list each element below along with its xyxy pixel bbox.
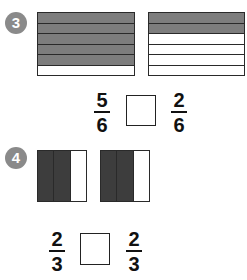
comparison-answer-box[interactable]	[126, 95, 156, 126]
shaded-part	[101, 151, 117, 201]
problem-number-badge: 4	[5, 147, 27, 169]
shaded-part	[149, 24, 244, 35]
unshaded-part	[149, 66, 244, 76]
shaded-part	[38, 24, 134, 35]
unshaded-part	[38, 66, 134, 76]
comparison-answer-box[interactable]	[80, 233, 110, 265]
shaded-part	[38, 45, 134, 56]
denominator: 6	[171, 115, 187, 135]
numerator: 5	[94, 90, 110, 110]
denominator: 3	[49, 254, 65, 274]
fraction-bar	[126, 250, 142, 252]
shaded-part	[38, 55, 134, 66]
unshaded-part	[149, 45, 244, 56]
fraction-bar	[171, 111, 187, 113]
problem-number-badge: 3	[5, 12, 27, 34]
shaded-part	[38, 13, 134, 24]
fraction-model-right	[100, 150, 150, 202]
fraction-model-left	[37, 12, 135, 76]
denominator: 3	[126, 254, 142, 274]
shaded-part	[38, 34, 134, 45]
shaded-part	[38, 151, 54, 201]
unshaded-part	[134, 151, 149, 201]
unshaded-part	[71, 151, 86, 201]
left-fraction: 5 6	[94, 90, 110, 135]
fraction-bar	[94, 111, 110, 113]
numerator: 2	[49, 229, 65, 249]
numerator: 2	[171, 90, 187, 110]
unshaded-part	[149, 55, 244, 66]
shaded-part	[54, 151, 70, 201]
right-fraction: 2 3	[126, 229, 142, 274]
left-fraction: 2 3	[49, 229, 65, 274]
shaded-part	[149, 13, 244, 24]
unshaded-part	[149, 34, 244, 45]
fraction-model-left	[37, 150, 87, 202]
shaded-part	[117, 151, 133, 201]
denominator: 6	[94, 115, 110, 135]
right-fraction: 2 6	[171, 90, 187, 135]
fraction-bar	[49, 250, 65, 252]
fraction-model-right	[148, 12, 245, 76]
numerator: 2	[126, 229, 142, 249]
